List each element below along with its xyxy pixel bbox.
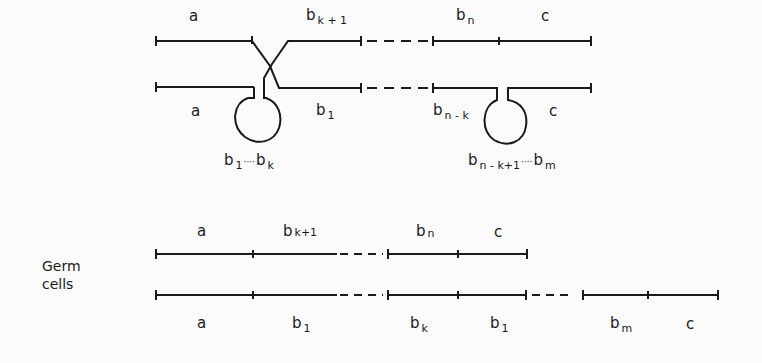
label-bnk-top2: bn - k [433, 103, 469, 118]
label-sub: m [545, 159, 556, 172]
label-dots: ···· [244, 157, 255, 167]
label-base: b [224, 151, 234, 169]
label-loop2: bn - k+1····bm [468, 153, 556, 168]
germ-row2-segments [156, 290, 718, 300]
germ-row1-segments [156, 249, 527, 259]
label-b1b-germ2: b1 [490, 316, 509, 331]
label-sub: 1 [502, 322, 509, 335]
label-a-germ1: a [197, 224, 206, 239]
label-base: b [490, 314, 500, 332]
label-b1-top2: b1 [316, 103, 335, 118]
label-a-germ2: a [197, 316, 206, 331]
label-base: b [456, 6, 466, 24]
label-base: b [256, 151, 266, 169]
label-base: b [433, 101, 443, 119]
label-sub: k [268, 159, 274, 172]
label-bk1-top1: bk + 1 [306, 8, 347, 23]
label-base: b [534, 151, 544, 169]
label-c-top1: c [541, 9, 549, 24]
label-sub: 1 [236, 159, 243, 172]
label-sub: n [428, 227, 435, 240]
label-c-germ2: c [686, 317, 694, 332]
label-base: b [316, 101, 326, 119]
label-bm-germ2: bm [610, 316, 632, 331]
label-a-top2: a [191, 104, 200, 119]
label-sub: k [422, 322, 428, 335]
label-base: b [610, 314, 620, 332]
label-sub: m [622, 322, 633, 335]
label-sub: k + 1 [318, 14, 348, 27]
label-c-top2: c [549, 104, 557, 119]
label-sub: n [468, 14, 475, 27]
label-b1-germ2: b1 [292, 316, 311, 331]
label-sub: 1 [304, 322, 311, 335]
label-base: b [410, 314, 420, 332]
germ-label-line2: cells [42, 275, 81, 293]
germ-label-line1: Germ [42, 257, 81, 275]
label-loop1: b1····bk [224, 153, 274, 168]
germ-cells-label: Germ cells [42, 257, 81, 293]
label-c-germ1: c [494, 225, 502, 240]
diagram-lines [0, 0, 762, 363]
top-row2-segments [156, 82, 591, 144]
label-sub: k+1 [295, 226, 318, 239]
label-base: b [468, 151, 478, 169]
label-sub: 1 [328, 109, 335, 122]
label-base: b [292, 314, 302, 332]
label-base: b [416, 222, 426, 240]
label-bn-germ1: bn [416, 224, 435, 239]
label-bk-germ2: bk [410, 316, 428, 331]
label-base: b [306, 6, 316, 24]
label-sub: n - k [445, 109, 469, 122]
label-a-top1: a [189, 9, 198, 24]
label-base: b [283, 222, 293, 240]
label-dots: ···· [521, 157, 532, 167]
label-bn-top1: bn [456, 8, 475, 23]
label-sub: n - k+1 [480, 159, 521, 172]
label-bk1-germ1: bk+1 [283, 224, 317, 239]
top-row1-segments [156, 36, 591, 88]
